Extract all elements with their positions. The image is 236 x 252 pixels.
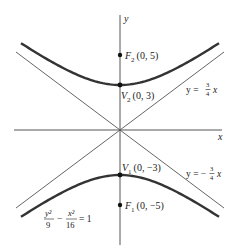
svg-text:−: − — [57, 214, 62, 224]
svg-text:= 1: = 1 — [79, 214, 92, 224]
vertex-v1-label: V1(0, −3) — [122, 162, 161, 176]
focus-f1-label: F1(0, −5) — [124, 200, 164, 214]
vertex-v2-label: V2(0, 3) — [121, 90, 154, 104]
svg-text:16: 16 — [66, 220, 75, 230]
focus-f1-point — [118, 203, 122, 207]
hyperbola-equation: y² 9 − x² 16 = 1 — [44, 208, 92, 230]
svg-text:4: 4 — [206, 90, 210, 97]
asymptote-positive-label: y = 3 4 x — [186, 81, 218, 97]
vertex-v2-point — [118, 83, 123, 88]
svg-text:3: 3 — [210, 165, 213, 172]
svg-text:9: 9 — [46, 220, 50, 230]
svg-text:x: x — [212, 85, 218, 95]
svg-text:y = −: y = − — [186, 169, 206, 179]
svg-text:y²: y² — [44, 208, 52, 218]
svg-text:x²: x² — [67, 208, 75, 218]
y-axis-label: y — [123, 13, 129, 24]
svg-text:4: 4 — [210, 174, 214, 181]
x-axis-label: x — [217, 131, 223, 142]
focus-f2-point — [118, 53, 122, 57]
vertex-v1-point — [118, 173, 123, 178]
svg-text:y =: y = — [186, 85, 198, 95]
hyperbola-diagram: y x F2(0, 5) V2(0, 3) V1(0, −3) F1(0, −5… — [0, 0, 236, 252]
asymptote-negative-label: y = − 3 4 x — [186, 165, 222, 181]
focus-f2-label: F2(0, 5) — [124, 50, 158, 64]
svg-text:3: 3 — [206, 81, 209, 88]
svg-text:x: x — [216, 169, 222, 179]
